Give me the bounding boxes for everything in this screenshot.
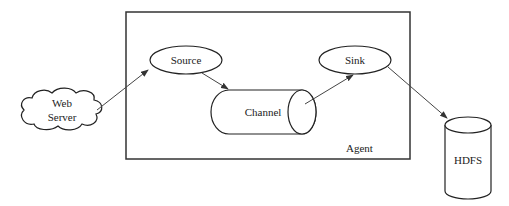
diagram-svg: Agent Web Server Source Sink Channel xyxy=(0,0,509,206)
sink-label: Sink xyxy=(345,54,366,66)
agent-box: Agent xyxy=(126,12,410,159)
web-server-label-line1: Web xyxy=(52,97,72,109)
agent-label: Agent xyxy=(346,142,373,154)
hdfs-node: HDFS xyxy=(445,117,491,199)
source-label: Source xyxy=(171,54,202,66)
channel-node: Channel xyxy=(211,90,316,134)
sink-node: Sink xyxy=(319,46,391,74)
source-node: Source xyxy=(150,46,222,74)
edge-source-channel xyxy=(202,73,228,89)
flume-architecture-diagram: Agent Web Server Source Sink Channel xyxy=(0,0,509,206)
edge-channel-sink xyxy=(305,75,353,104)
hdfs-label: HDFS xyxy=(454,154,482,166)
web-server-cloud: Web Server xyxy=(22,88,102,130)
edge-webserver-source xyxy=(97,70,148,110)
web-server-label-line2: Server xyxy=(48,111,77,123)
channel-label: Channel xyxy=(245,106,282,118)
edge-sink-hdfs xyxy=(388,67,447,118)
